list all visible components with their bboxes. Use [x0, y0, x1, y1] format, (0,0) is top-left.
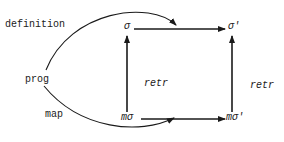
definition-curve-arrow — [46, 12, 176, 70]
prog-label: prog — [25, 75, 49, 85]
retr-left-label: retr — [144, 79, 168, 89]
definition-label: definition — [5, 20, 65, 30]
sigma-prime-node: σ' — [228, 22, 240, 32]
map-label: map — [45, 110, 63, 120]
m-sigma-prime-node: mσ' — [226, 113, 244, 123]
m-sigma-node: mσ — [121, 113, 133, 123]
map-curve-arrow — [44, 86, 174, 127]
commutative-diagram: definition prog map σ σ' mσ mσ' retr ret… — [0, 0, 284, 142]
sigma-node: σ — [124, 22, 130, 32]
retr-right-label: retr — [250, 81, 274, 91]
